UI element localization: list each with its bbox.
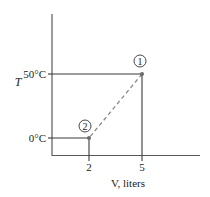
x-tick-label-2: 2: [86, 161, 92, 173]
y-tick-label-0C: 0°C: [29, 132, 46, 144]
state-diagram: 1 2 50°C 0°C T 2 5 V, liters: [0, 0, 210, 197]
state-point-2: [87, 136, 91, 140]
point-1-label: 1: [138, 56, 143, 67]
point-2-marker: 2: [79, 120, 91, 132]
x-axis-label: V, liters: [111, 177, 145, 189]
state-point-1: [140, 72, 144, 76]
process-path-dashed: [89, 74, 142, 138]
y-tick-label-50C: 50°C: [23, 68, 46, 80]
point-2-label: 2: [83, 121, 88, 132]
x-tick-label-5: 5: [139, 161, 145, 173]
point-1-marker: 1: [134, 55, 146, 67]
y-axis-label: T: [15, 75, 23, 89]
